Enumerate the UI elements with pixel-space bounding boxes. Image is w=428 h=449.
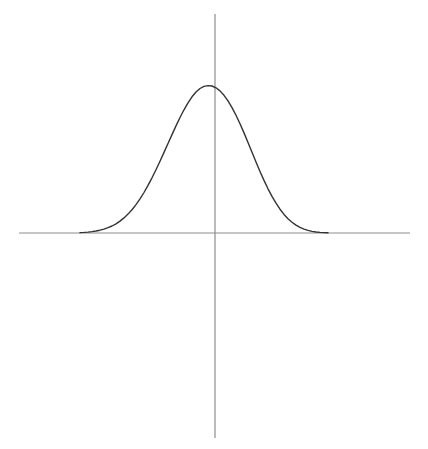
- gaussian-plot-figure: [0, 0, 428, 449]
- plot-canvas: [0, 0, 428, 449]
- plot-background: [0, 0, 428, 449]
